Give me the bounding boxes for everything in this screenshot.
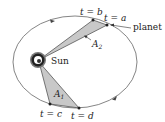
kepler-orbit-diagram: t = b t = a planet A2 Sun A1 t = c t = d	[0, 0, 165, 122]
point-t-c	[49, 103, 52, 106]
point-t-a	[106, 24, 109, 27]
orbit-arrow-top-icon	[50, 20, 55, 24]
point-t-d	[78, 107, 81, 110]
label-area-a2: A2	[91, 39, 103, 50]
label-t-a: t = a	[104, 13, 126, 23]
label-t-d: t = d	[71, 111, 94, 121]
point-t-b	[92, 19, 95, 22]
label-t-b: t = b	[80, 7, 103, 17]
sun-icon	[30, 52, 46, 68]
area-a1-sector	[39, 62, 79, 108]
label-t-c: t = c	[40, 109, 62, 119]
label-sun: Sun	[51, 56, 69, 66]
label-planet: planet	[133, 22, 162, 32]
